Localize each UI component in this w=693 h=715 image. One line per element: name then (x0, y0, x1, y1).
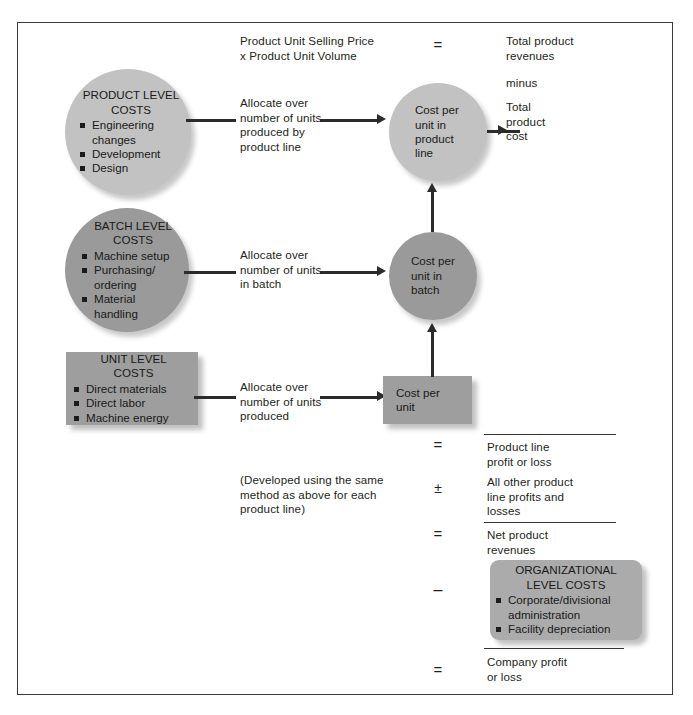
organizational-level-costs-title: ORGANIZATIONAL LEVEL COSTS (495, 563, 637, 592)
shape-product-level-costs: PRODUCT LEVEL COSTS Engineering changes … (65, 69, 191, 195)
operator-equals-company-profit: = (428, 662, 448, 677)
arrow-right-product-level (377, 114, 386, 124)
arrow-up-batch-to-product-line (427, 183, 437, 192)
operator-minus-organizational-costs: – (428, 582, 448, 597)
list-item: Development (79, 147, 183, 161)
rule-above-net-product-revenues (484, 522, 616, 523)
shape-organizational-level-costs: ORGANIZATIONAL LEVEL COSTS Corporate/div… (490, 560, 642, 640)
batch-level-costs-title: BATCH LEVEL COSTS (81, 219, 185, 248)
operator-equals-top: = (428, 37, 448, 52)
batch-level-costs-list: Machine setup Purchasing/ ordering Mater… (81, 249, 185, 321)
unit-level-costs-title: UNIT LEVEL COSTS (73, 352, 194, 381)
product-level-costs-list: Engineering changes Development Design (79, 118, 183, 176)
cost-per-unit-in-product-line-label: Cost per unit in product line (389, 103, 487, 161)
list-item: Facility depreciation (495, 622, 637, 636)
operator-plus-minus-other-lines: ± (428, 481, 448, 496)
shape-cost-per-unit-in-product-line: Cost per unit in product line (389, 83, 487, 181)
rule-above-product-line-profit (484, 434, 616, 435)
statement-company-profit-or-loss: Company profit or loss (487, 655, 637, 684)
list-item: Machine setup (81, 249, 185, 263)
connector-product-level-stub (186, 119, 236, 122)
rule-above-company-profit (484, 648, 624, 649)
operator-equals-product-line-profit: = (428, 437, 448, 452)
statement-net-product-revenues: Net product revenues (487, 528, 627, 557)
list-item: Direct materials (73, 382, 194, 396)
statement-all-other-product-line-profits-and-losses: All other product line profits and losse… (487, 475, 627, 519)
list-item: Design (79, 161, 183, 175)
list-item: Machine energy (73, 411, 194, 425)
allocation-batch-text: Allocate over number of units in batch (240, 248, 352, 292)
list-item: Direct labor (73, 396, 194, 410)
arrow-right-batch-level (377, 266, 386, 276)
connector-unit-to-batch (431, 330, 434, 377)
shape-unit-level-costs: UNIT LEVEL COSTS Direct materials Direct… (66, 352, 198, 425)
allocation-product-line-text: Allocate over number of units produced b… (240, 96, 350, 154)
arrow-right-total-product-cost (498, 125, 507, 135)
list-item: Engineering changes (79, 118, 183, 147)
product-level-costs-title: PRODUCT LEVEL COSTS (79, 88, 183, 117)
list-item: Material handling (81, 292, 185, 321)
arrow-up-unit-to-batch (427, 323, 437, 332)
cost-per-unit-in-batch-label: Cost per unit in batch (389, 254, 477, 297)
statement-total-product-revenues: Total product revenues (506, 34, 646, 63)
connector-unit-level-stub (194, 396, 236, 399)
shape-batch-level-costs: BATCH LEVEL COSTS Machine setup Purchasi… (65, 208, 189, 332)
revenue-formula-text: Product Unit Selling Price x Product Uni… (240, 34, 450, 63)
statement-total-product-cost: Total product cost (506, 100, 646, 144)
connector-batch-to-product-line (431, 190, 434, 232)
operator-equals-net-product-revenues: = (428, 526, 448, 541)
connector-batch-level-stub (184, 271, 236, 274)
list-item: Purchasing/ ordering (81, 263, 185, 292)
unit-level-costs-list: Direct materials Direct labor Machine en… (73, 382, 194, 425)
cost-per-unit-label: Cost per unit (383, 386, 472, 415)
shape-cost-per-unit-in-batch: Cost per unit in batch (389, 232, 477, 320)
allocation-unit-text: Allocate over number of units produced (240, 380, 352, 424)
diagram-canvas: Product Unit Selling Price x Product Uni… (0, 0, 693, 715)
list-item: Corporate/divisional administration (495, 593, 637, 622)
statement-minus-word: minus (506, 76, 646, 91)
statement-product-line-profit-or-loss: Product line profit or loss (487, 440, 627, 469)
developed-note-text: (Developed using the same method as abov… (240, 473, 410, 517)
organizational-level-costs-list: Corporate/divisional administration Faci… (495, 593, 637, 636)
shape-cost-per-unit: Cost per unit (383, 376, 472, 424)
